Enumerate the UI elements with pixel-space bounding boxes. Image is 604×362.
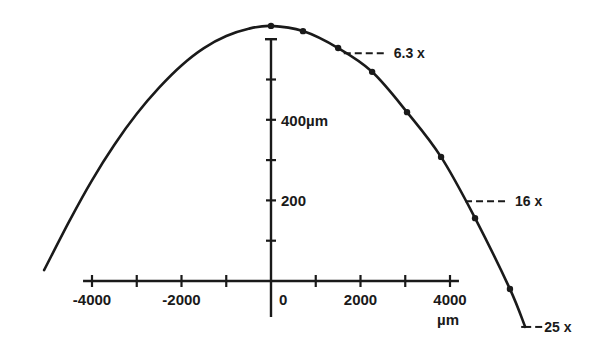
y-tick-label: 400µm [281,112,328,129]
x-tick-label: -2000 [162,291,200,308]
data-point [438,154,444,160]
annotation-label: 16 x [515,193,542,209]
label-layer: -4000-2000020004000µm200400µm [73,112,467,328]
data-point [507,286,513,292]
axes [83,39,459,317]
data-point [268,23,274,29]
data-point [300,28,306,34]
data-point [369,69,375,75]
x-tick-label: 0 [279,291,287,308]
y-tick-label: 200 [281,192,306,209]
data-point [335,45,341,51]
x-tick-label: 2000 [344,291,377,308]
data-point [472,215,478,221]
annotation-label: 25 x [544,319,571,335]
marker-layer [268,23,513,293]
x-tick-label: -4000 [73,291,111,308]
data-point [404,109,410,115]
x-axis-label: µm [437,311,459,328]
annotation-label: 6.3 x [394,45,425,61]
chart: 6.3 x16 x25 x -4000-2000020004000µm20040… [0,0,604,362]
x-tick-label: 4000 [433,291,466,308]
